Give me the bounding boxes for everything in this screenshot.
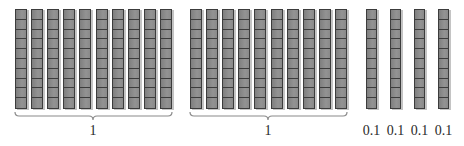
rod-cell (391, 69, 400, 79)
rod-cell (367, 69, 376, 79)
rod-cell (391, 88, 400, 98)
rod-cell (415, 79, 424, 89)
rod-cell (415, 30, 424, 40)
rod-cell (439, 69, 448, 79)
tenth-label: 0.1 (435, 124, 453, 138)
tenth-label: 0.1 (363, 124, 381, 138)
rod-cell (439, 20, 448, 30)
rod-cell (415, 20, 424, 30)
rod-cell (415, 59, 424, 69)
rod-cell (391, 49, 400, 59)
rod-cell (391, 30, 400, 40)
group-label: 1 (265, 124, 272, 138)
rod-cell (391, 20, 400, 30)
rod-cell (439, 10, 448, 20)
rod-cell (415, 88, 424, 98)
rod-cell (367, 88, 376, 98)
rod-cell (415, 69, 424, 79)
tenth-rod (438, 9, 449, 109)
rod-cell (367, 20, 376, 30)
rod-cell (439, 30, 448, 40)
rod-cell (367, 39, 376, 49)
rod-cell (367, 79, 376, 89)
rod-cell (391, 39, 400, 49)
rod-cell (415, 10, 424, 20)
rod-cell (367, 30, 376, 40)
rod-cell (439, 49, 448, 59)
rod-cell (439, 98, 448, 108)
rod-cell (391, 79, 400, 89)
rod-cell (439, 59, 448, 69)
rod-cell (415, 39, 424, 49)
tenth-label: 0.1 (387, 124, 405, 138)
rod-cell (367, 10, 376, 20)
rod-cell (367, 98, 376, 108)
tenth-label: 0.1 (411, 124, 429, 138)
rod-cell (391, 59, 400, 69)
rod-cell (439, 79, 448, 89)
tenth-rod (414, 9, 425, 109)
rod-cell (415, 49, 424, 59)
tenth-rod (390, 9, 401, 109)
rod-cell (439, 39, 448, 49)
tenth-rod (366, 9, 377, 109)
rod-cell (367, 59, 376, 69)
rod-cell (367, 49, 376, 59)
base-ten-diagram: 110.10.10.10.1 (0, 0, 464, 146)
rod-cell (391, 98, 400, 108)
rod-cell (391, 10, 400, 20)
rod-cell (415, 98, 424, 108)
rod-cell (439, 88, 448, 98)
